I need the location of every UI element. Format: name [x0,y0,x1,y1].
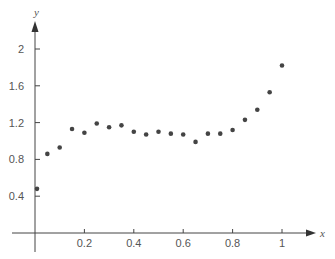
data-point [230,128,235,133]
data-point [255,107,260,112]
x-tick-label: 0.6 [176,237,191,249]
data-point [218,131,223,136]
x-axis-label: x [319,227,325,239]
data-point [280,63,285,68]
data-point [94,121,99,126]
y-axis-label: y [33,6,39,18]
axes: x y [12,6,325,252]
y-tick-label: 2 [18,43,24,55]
data-point [82,130,87,135]
data-point [267,90,272,95]
data-point [45,152,50,157]
x-tick-label: 0.4 [126,237,141,249]
data-point [243,118,248,123]
data-point [70,127,75,132]
y-axis-arrow-icon [32,21,39,32]
y-tick-label: 0.4 [9,190,24,202]
data-point [107,125,112,130]
y-tick-label: 1.6 [9,80,24,92]
data-point [35,187,40,192]
x-tick-label: 0.8 [225,237,240,249]
scatter-chart: x y 0.20.40.60.81 0.40.81.21.62 [0,0,335,259]
data-point [119,123,124,128]
data-point [169,131,174,136]
data-points [35,63,285,191]
x-tick-label: 0.2 [77,237,92,249]
x-ticks: 0.20.40.60.81 [77,229,285,249]
data-point [193,140,198,145]
x-tick-label: 1 [279,237,285,249]
data-point [144,132,149,137]
data-point [181,132,186,137]
x-axis-arrow-icon [306,230,316,237]
data-point [206,131,211,136]
y-tick-label: 1.2 [9,117,24,129]
data-point [57,145,62,150]
y-tick-label: 0.8 [9,153,24,165]
data-point [156,130,161,135]
data-point [132,130,137,135]
